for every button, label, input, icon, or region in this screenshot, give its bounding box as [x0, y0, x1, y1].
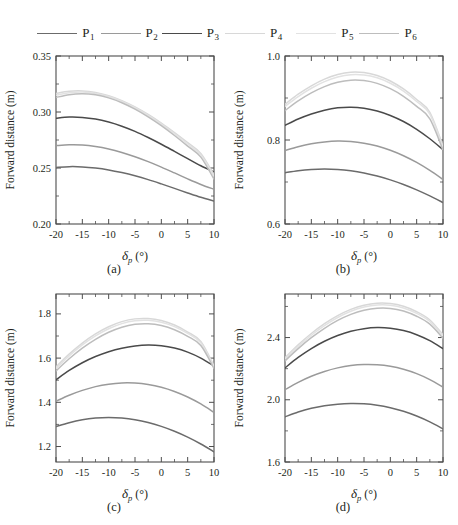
series-line-P1: [56, 418, 214, 452]
x-tick-label: -10: [102, 467, 116, 478]
panel-caption-a: (a): [0, 262, 228, 277]
x-tick-label: -5: [360, 229, 369, 240]
x-tick-label: -5: [131, 229, 140, 240]
legend-swatch-line: [225, 33, 265, 34]
series-line-P2: [285, 364, 443, 389]
x-tick-label: 5: [185, 467, 190, 478]
series-line-P1: [285, 403, 443, 428]
x-tick-label: -20: [278, 467, 292, 478]
legend-item-p2: P2: [101, 26, 162, 42]
legend-item-p3: P3: [162, 26, 223, 42]
plot-b: -20-15-10-505100.60.81.0Forward distance…: [229, 46, 457, 286]
series-line-P4: [56, 318, 214, 367]
legend-swatch-line: [37, 33, 77, 34]
y-axis-title: Forward distance (m): [233, 328, 246, 427]
series-line-P1: [56, 167, 214, 201]
y-tick-label: 0.30: [33, 107, 51, 118]
y-tick-label: 0.25: [33, 163, 51, 174]
x-tick-label: -15: [75, 229, 89, 240]
y-axis-title: Forward distance (m): [4, 328, 17, 427]
x-tick-label: -15: [75, 467, 89, 478]
legend-label: P3: [207, 26, 219, 42]
x-tick-label: 0: [388, 467, 393, 478]
chart-panel-c: -20-15-10-505101.21.41.61.8Forward dista…: [0, 284, 228, 524]
y-axis-title: Forward distance (m): [233, 90, 246, 189]
x-tick-label: 5: [414, 467, 419, 478]
x-tick-label: -10: [331, 467, 345, 478]
legend-label: P2: [146, 26, 158, 42]
series-line-P5: [56, 92, 214, 176]
y-tick-label: 1.6: [38, 353, 51, 364]
x-tick-label: 0: [159, 229, 164, 240]
series-line-P4: [56, 91, 214, 175]
x-tick-label: 5: [414, 229, 419, 240]
legend-swatch-line: [101, 33, 141, 34]
x-tick-label: 10: [438, 229, 449, 240]
legend-item-p5: P5: [296, 26, 357, 42]
legend-label: P5: [341, 26, 353, 42]
chart-panel-b: -20-15-10-505100.60.81.0Forward distance…: [229, 46, 457, 286]
x-tick-label: 10: [209, 229, 220, 240]
x-tick-label: -20: [49, 229, 63, 240]
y-tick-label: 1.0: [267, 51, 280, 62]
y-tick-label: 1.6: [267, 457, 280, 468]
y-tick-label: 2.0: [267, 394, 280, 405]
legend-item-p1: P1: [37, 26, 98, 42]
panel-caption-d: (d): [229, 500, 457, 515]
chart-panel-d: -20-15-10-505101.62.02.4Forward distance…: [229, 284, 457, 524]
x-tick-label: 10: [438, 467, 449, 478]
x-tick-label: 0: [159, 467, 164, 478]
y-tick-label: 0.35: [33, 51, 51, 62]
y-tick-label: 1.4: [38, 397, 52, 408]
x-tick-label: -15: [304, 467, 318, 478]
legend-item-p6: P6: [359, 26, 420, 42]
figure-legend: P1P2P3P4P5P6: [0, 22, 458, 46]
plot-frame: [56, 56, 214, 224]
y-tick-label: 0.6: [267, 219, 280, 230]
y-tick-label: 1.2: [38, 441, 51, 452]
x-tick-label: -5: [131, 467, 140, 478]
x-tick-label: -5: [360, 467, 369, 478]
legend-swatch-line: [359, 33, 399, 34]
x-tick-label: 10: [209, 467, 220, 478]
panel-caption-c: (c): [0, 500, 228, 515]
chart-panel-a: -20-15-10-505100.200.250.300.35Forward d…: [0, 46, 228, 286]
series-line-P2: [56, 383, 214, 413]
x-tick-label: -20: [49, 467, 63, 478]
plot-d: -20-15-10-505101.62.02.4Forward distance…: [229, 284, 457, 524]
x-tick-label: -10: [102, 229, 116, 240]
legend-item-p4: P4: [225, 26, 286, 42]
series-line-P1: [285, 169, 443, 203]
plot-c: -20-15-10-505101.21.41.61.8Forward dista…: [0, 284, 228, 524]
legend-swatch-line: [296, 33, 336, 34]
legend-label: P1: [82, 26, 94, 42]
figure-root: P1P2P3P4P5P6 -20-15-10-505100.200.250.30…: [0, 0, 458, 525]
legend-label: P4: [270, 26, 282, 42]
y-tick-label: 0.8: [267, 135, 280, 146]
x-tick-label: 5: [185, 229, 190, 240]
y-axis-title: Forward distance (m): [4, 90, 17, 189]
x-tick-label: -20: [278, 229, 292, 240]
x-tick-label: -15: [304, 229, 318, 240]
x-tick-label: -10: [331, 229, 345, 240]
series-line-P5: [285, 74, 443, 147]
panel-caption-b: (b): [229, 262, 457, 277]
series-line-P6: [285, 308, 443, 361]
x-tick-label: 0: [388, 229, 393, 240]
plot-a: -20-15-10-505100.200.250.300.35Forward d…: [0, 46, 228, 286]
legend-swatch-line: [162, 33, 202, 34]
y-tick-label: 1.8: [38, 308, 51, 319]
y-tick-label: 0.20: [33, 219, 51, 230]
series-line-P3: [285, 328, 443, 368]
y-tick-label: 2.4: [267, 332, 281, 343]
legend-label: P6: [404, 26, 416, 42]
